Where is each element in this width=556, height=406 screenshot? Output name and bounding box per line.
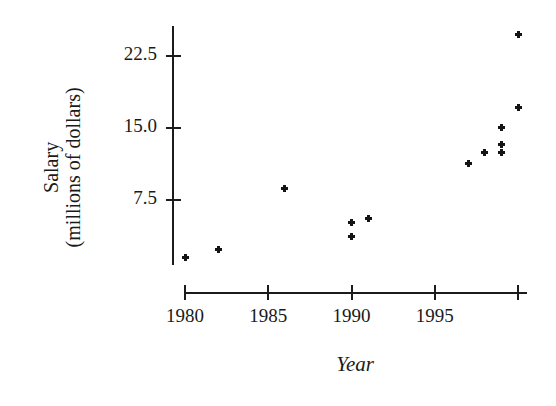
x-axis-tick-label: 1985 [228, 305, 308, 327]
x-axis-tick [517, 285, 519, 300]
data-point [182, 254, 189, 261]
x-axis-tick [351, 285, 353, 300]
x-axis-tick [434, 285, 436, 300]
x-axis-tick [184, 285, 186, 300]
data-point [281, 185, 288, 192]
data-point [498, 124, 505, 131]
plot-area [0, 0, 556, 406]
data-point [498, 141, 505, 148]
y-axis-tick-label: 22.5 [95, 43, 157, 65]
data-point [215, 246, 222, 253]
data-point [348, 233, 355, 240]
x-axis-tick [267, 285, 269, 300]
y-axis-tick-label: 7.5 [95, 187, 157, 209]
data-point [465, 160, 472, 167]
y-axis-tick [166, 55, 181, 57]
y-axis-tick [166, 199, 181, 201]
data-point [515, 31, 522, 38]
x-axis-tick-label: 1995 [395, 305, 475, 327]
data-point [348, 219, 355, 226]
scatter-chart-figure: Salary(millions of dollars) Year 7.515.0… [0, 0, 556, 406]
y-axis-tick-label: 15.0 [95, 115, 157, 137]
x-axis-tick-label: 1990 [312, 305, 392, 327]
data-point [481, 149, 488, 156]
data-point [498, 149, 505, 156]
data-point [365, 215, 372, 222]
data-point [515, 104, 522, 111]
y-axis-tick [166, 127, 181, 129]
x-axis-tick-label: 1980 [145, 305, 225, 327]
